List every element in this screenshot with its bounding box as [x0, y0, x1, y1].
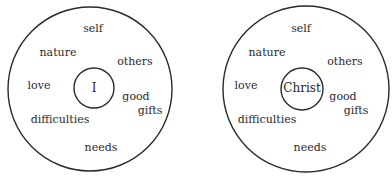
label-self: self	[291, 23, 311, 34]
center-label: Christ	[283, 82, 320, 94]
label-needs: needs	[294, 142, 327, 153]
label-good: good	[122, 91, 149, 102]
label-nature: nature	[249, 47, 286, 58]
label-love: love	[235, 80, 258, 91]
label-difficulties: difficulties	[31, 114, 90, 125]
label-good: good	[329, 91, 356, 102]
label-gifts: gifts	[344, 105, 369, 116]
label-love: love	[28, 80, 51, 91]
label-difficulties: difficulties	[238, 114, 297, 125]
label-nature: nature	[40, 47, 77, 58]
label-needs: needs	[85, 142, 118, 153]
label-others: others	[327, 56, 363, 67]
label-self: self	[83, 23, 103, 34]
center-label: I	[92, 82, 97, 94]
label-others: others	[117, 56, 153, 67]
label-gifts: gifts	[138, 105, 163, 116]
